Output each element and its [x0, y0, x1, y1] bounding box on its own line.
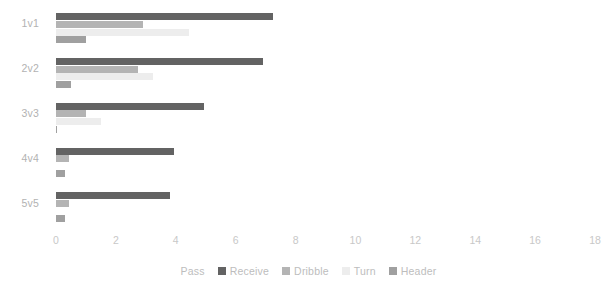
- x-axis-tick-0: 0: [53, 234, 59, 246]
- y-axis-label-5v5: 5v5: [21, 197, 39, 209]
- x-axis-tick-14: 14: [469, 234, 481, 246]
- bar-fill: [56, 200, 69, 207]
- bar-dribble-2v2[interactable]: [56, 66, 138, 73]
- y-axis-label-2v2: 2v2: [21, 62, 39, 74]
- bar-receive-3v3[interactable]: [56, 103, 204, 110]
- legend-label: Turn: [354, 265, 376, 277]
- bar-turn-1v1[interactable]: [56, 29, 189, 36]
- bar-fill: [56, 13, 273, 20]
- legend-swatch-icon: [389, 267, 397, 275]
- legend-item-receive[interactable]: Receive: [218, 265, 269, 277]
- bar-fill: [56, 148, 174, 155]
- bar-header-3v3[interactable]: [56, 126, 57, 133]
- x-axis-tick-6: 6: [233, 234, 239, 246]
- y-axis-label-4v4: 4v4: [21, 152, 39, 164]
- bar-fill: [56, 81, 71, 88]
- bar-fill: [56, 126, 57, 133]
- legend-item-dribble[interactable]: Dribble: [282, 265, 329, 277]
- legend-swatch-icon: [218, 267, 226, 275]
- bar-fill: [56, 103, 204, 110]
- bar-fill: [56, 36, 86, 43]
- bar-dribble-5v5[interactable]: [56, 200, 69, 207]
- bar-group-1v1: [56, 8, 595, 53]
- x-axis-tick-16: 16: [529, 234, 541, 246]
- bar-fill: [56, 110, 86, 117]
- legend-swatch-icon: [342, 267, 350, 275]
- bar-receive-2v2[interactable]: [56, 58, 263, 65]
- bar-dribble-4v4[interactable]: [56, 155, 69, 162]
- bar-header-4v4[interactable]: [56, 170, 65, 177]
- bar-group-5v5: [56, 187, 595, 232]
- bar-turn-2v2[interactable]: [56, 73, 153, 80]
- x-axis-tick-10: 10: [350, 234, 362, 246]
- legend-label: Pass: [181, 265, 205, 277]
- bar-header-2v2[interactable]: [56, 81, 71, 88]
- bar-fill: [56, 118, 101, 125]
- bar-fill: [56, 192, 170, 199]
- bar-header-1v1[interactable]: [56, 36, 86, 43]
- bar-receive-5v5[interactable]: [56, 192, 170, 199]
- bar-fill: [56, 58, 263, 65]
- bar-group-3v3: [56, 98, 595, 143]
- legend-item-pass[interactable]: Pass: [169, 265, 205, 277]
- bar-dribble-3v3[interactable]: [56, 110, 86, 117]
- x-axis: 024681012141618: [56, 232, 595, 252]
- bar-fill: [56, 66, 138, 73]
- bar-fill: [56, 29, 189, 36]
- bar-fill: [56, 170, 65, 177]
- legend-swatch-icon: [169, 267, 177, 275]
- bar-fill: [56, 215, 65, 222]
- x-axis-tick-12: 12: [409, 234, 421, 246]
- x-axis-tick-4: 4: [173, 234, 179, 246]
- y-axis-category-labels: 1v12v23v34v45v5: [0, 8, 50, 232]
- x-axis-tick-8: 8: [293, 234, 299, 246]
- legend-item-turn[interactable]: Turn: [342, 265, 376, 277]
- bar-group-4v4: [56, 142, 595, 187]
- bar-turn-3v3[interactable]: [56, 118, 101, 125]
- plot-area: [56, 8, 595, 232]
- legend-label: Receive: [230, 265, 269, 277]
- y-axis-label-3v3: 3v3: [21, 107, 39, 119]
- legend-label: Header: [401, 265, 437, 277]
- bar-chart: 1v12v23v34v45v5 024681012141618 PassRece…: [0, 0, 605, 296]
- x-axis-tick-18: 18: [589, 234, 601, 246]
- bar-fill: [56, 155, 69, 162]
- legend-item-header[interactable]: Header: [389, 265, 437, 277]
- chart-legend: PassReceiveDribbleTurnHeader: [0, 262, 605, 280]
- bar-receive-4v4[interactable]: [56, 148, 174, 155]
- legend-label: Dribble: [294, 265, 329, 277]
- bar-dribble-1v1[interactable]: [56, 21, 143, 28]
- bar-group-2v2: [56, 53, 595, 98]
- bar-header-5v5[interactable]: [56, 215, 65, 222]
- y-axis-label-1v1: 1v1: [21, 17, 39, 29]
- bar-receive-1v1[interactable]: [56, 13, 273, 20]
- legend-swatch-icon: [282, 267, 290, 275]
- x-axis-tick-2: 2: [113, 234, 119, 246]
- bar-fill: [56, 21, 143, 28]
- bar-fill: [56, 73, 153, 80]
